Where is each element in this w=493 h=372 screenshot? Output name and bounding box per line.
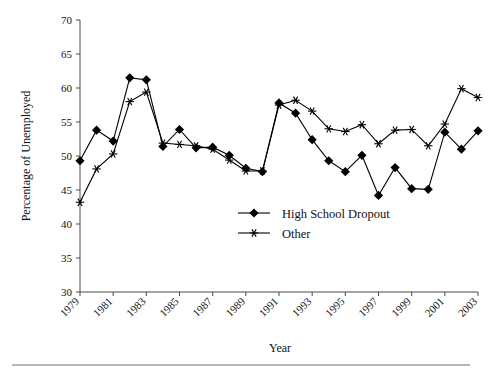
series-group (75, 73, 482, 206)
x-tick-label: 1979 (57, 295, 81, 319)
legend-item-2: Other (238, 227, 311, 241)
y-tick-label: 50 (61, 150, 73, 162)
data-point-star (250, 229, 258, 236)
chart-legend: High School DropoutOther (238, 207, 390, 241)
data-point-star (175, 141, 183, 148)
x-axis-title: Year (269, 341, 291, 355)
x-tick-label: 1995 (323, 295, 347, 319)
data-point-diamond (125, 73, 134, 82)
series-1 (75, 73, 482, 200)
y-tick-label: 65 (61, 48, 73, 60)
data-point-diamond (75, 156, 84, 165)
chart-figure: 303540455055606570 197919811983198519871… (0, 0, 493, 372)
data-point-diamond (208, 143, 217, 152)
x-tick-label: 1981 (91, 295, 115, 319)
data-point-star (474, 94, 482, 101)
y-tick-label: 35 (61, 252, 73, 264)
y-tick-label: 70 (61, 14, 73, 26)
y-tick-label: 55 (61, 116, 73, 128)
x-tick-label: 2003 (455, 295, 479, 319)
x-tick-label: 1985 (157, 295, 181, 319)
data-point-star (441, 120, 449, 127)
legend-item-1: High School Dropout (238, 207, 390, 221)
data-point-star (341, 128, 349, 135)
x-tick-label: 1993 (290, 295, 314, 319)
x-tick-label: 1991 (256, 295, 280, 319)
x-tick-group: 1979198119831985198719891991199319951997… (57, 292, 479, 319)
y-axis-title: Percentage of Unemployed (19, 91, 33, 222)
x-tick-label: 1987 (190, 295, 214, 319)
y-tick-label: 40 (61, 218, 73, 230)
data-point-diamond (249, 208, 258, 217)
data-point-diamond (92, 126, 101, 135)
x-tick-label: 1989 (223, 295, 247, 319)
y-tick-group: 303540455055606570 (61, 14, 80, 298)
legend-label: Other (282, 227, 311, 241)
x-tick-label: 1997 (356, 295, 380, 319)
x-tick-label: 1999 (389, 295, 413, 319)
data-point-star (126, 98, 134, 105)
line-chart: 303540455055606570 197919811983198519871… (0, 0, 493, 372)
data-point-diamond (291, 109, 300, 118)
data-point-diamond (424, 185, 433, 194)
x-tick-label: 2001 (422, 295, 446, 319)
data-point-star (457, 85, 465, 92)
legend-label: High School Dropout (282, 207, 390, 221)
data-point-diamond (374, 191, 383, 200)
x-tick-label: 1983 (124, 295, 148, 319)
y-tick-label: 45 (61, 184, 73, 196)
y-tick-label: 60 (61, 82, 73, 94)
data-point-diamond (142, 75, 151, 84)
